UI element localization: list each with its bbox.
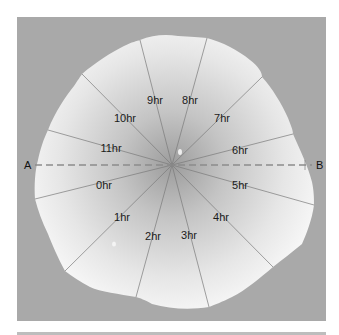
- highlight-spot: [112, 242, 116, 247]
- ray-label-1hr: 1hr: [114, 211, 130, 223]
- sector-diagram: 0hr1hr2hr3hr4hr5hr6hr7hr8hr9hr10hr11hr A…: [0, 0, 339, 335]
- ray-label-11hr: 11hr: [100, 142, 122, 154]
- ray-label-6hr: 6hr: [232, 144, 248, 156]
- axis-start-label: A: [24, 159, 32, 171]
- axis-end-label: B: [316, 159, 323, 171]
- ray-label-9hr: 9hr: [147, 94, 163, 106]
- ray-label-3hr: 3hr: [181, 229, 197, 241]
- ray-label-10hr: 10hr: [114, 112, 136, 124]
- ray-label-4hr: 4hr: [213, 211, 229, 223]
- ray-label-8hr: 8hr: [182, 94, 198, 106]
- ray-label-2hr: 2hr: [145, 230, 161, 242]
- highlight-spot: [178, 149, 182, 155]
- ray-label-0hr: 0hr: [96, 179, 112, 191]
- ray-label-5hr: 5hr: [232, 179, 248, 191]
- ray-label-7hr: 7hr: [214, 112, 230, 124]
